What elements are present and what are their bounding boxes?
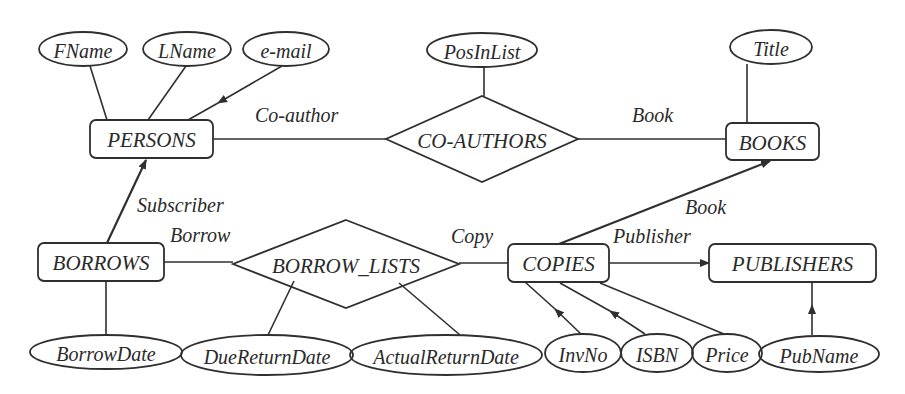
- attribute-email[interactable]: e-mail: [243, 32, 329, 66]
- role-subscriber: Subscriber: [137, 194, 224, 216]
- attribute-label: PosInList: [443, 41, 521, 63]
- attribute-label: e-mail: [260, 40, 312, 62]
- attribute-price[interactable]: Price: [692, 334, 762, 372]
- entity-persons[interactable]: PERSONS: [90, 120, 213, 158]
- attribute-label: DueReturnDate: [203, 346, 331, 368]
- entity-copies[interactable]: COPIES: [508, 244, 609, 282]
- edge-line: [188, 103, 218, 120]
- arrow-icon: [218, 66, 282, 103]
- relationship-label: BORROW_LISTS: [272, 254, 421, 278]
- entity-label: COPIES: [522, 252, 595, 276]
- role-borrow: Borrow: [170, 224, 231, 246]
- er-diagram: FNameLNamee-mailPosInListTitleBorrowDate…: [0, 0, 905, 394]
- entity-label: BORROWS: [53, 251, 150, 275]
- attribute-posinlist[interactable]: PosInList: [427, 33, 537, 67]
- relationship-label: CO-AUTHORS: [417, 129, 547, 153]
- role-coauthor: Co-author: [255, 104, 339, 126]
- edge-line: [399, 283, 460, 335]
- attribute-label: PubName: [779, 345, 859, 367]
- attribute-label: ActualReturnDate: [371, 346, 519, 368]
- edge-borrowlists-actualreturn: [399, 283, 460, 335]
- edge-line: [148, 66, 186, 120]
- relationships-layer: CO-AUTHORSBORROW_LISTS: [233, 96, 578, 308]
- entity-books[interactable]: BOOKS: [726, 123, 819, 160]
- relationship-borrow-lists[interactable]: BORROW_LISTS: [233, 220, 459, 308]
- arrow-icon: [555, 309, 581, 334]
- entity-label: PUBLISHERS: [731, 252, 854, 276]
- edge-line: [525, 282, 555, 309]
- roles-layer: Co-authorBookSubscriberBorrowCopyBookPub…: [137, 104, 727, 248]
- edge-fname-persons: [90, 66, 107, 120]
- edge-line: [600, 283, 724, 334]
- role-publisher: Publisher: [612, 225, 691, 247]
- attribute-borrowdate[interactable]: BorrowDate: [30, 335, 182, 369]
- attribute-lname[interactable]: LName: [143, 32, 231, 66]
- edge-lname-persons: [148, 66, 186, 120]
- entity-label: BOOKS: [739, 131, 807, 155]
- attribute-label: Price: [704, 344, 748, 366]
- attribute-title[interactable]: Title: [730, 30, 812, 64]
- arrow-icon: [610, 311, 645, 334]
- attribute-duereturndate[interactable]: DueReturnDate: [181, 335, 353, 375]
- attribute-fname[interactable]: FName: [39, 32, 127, 66]
- entity-label: PERSONS: [106, 128, 196, 152]
- role-copy: Copy: [451, 225, 493, 248]
- relationship-co-authors[interactable]: CO-AUTHORS: [386, 96, 578, 182]
- attribute-pubname[interactable]: PubName: [759, 336, 879, 372]
- edge-price-copies: [600, 283, 724, 334]
- attribute-label: BorrowDate: [56, 343, 155, 365]
- entity-publishers[interactable]: PUBLISHERS: [709, 244, 876, 282]
- edge-line: [268, 281, 294, 335]
- role-book-top: Book: [632, 104, 674, 126]
- attribute-label: ISBN: [635, 344, 680, 366]
- attribute-actualreturndate[interactable]: ActualReturnDate: [350, 335, 542, 375]
- edge-line: [90, 66, 107, 120]
- attribute-label: FName: [53, 40, 113, 62]
- attribute-label: Title: [753, 38, 789, 60]
- attribute-invno[interactable]: InvNo: [545, 334, 621, 372]
- role-book-bottom: Book: [685, 196, 727, 218]
- entity-borrows[interactable]: BORROWS: [38, 243, 164, 281]
- attribute-isbn[interactable]: ISBN: [621, 334, 693, 372]
- edge-line: [560, 283, 610, 311]
- attribute-label: LName: [157, 40, 216, 62]
- edge-borrowlists-duereturn: [268, 281, 294, 335]
- attribute-label: InvNo: [558, 344, 608, 366]
